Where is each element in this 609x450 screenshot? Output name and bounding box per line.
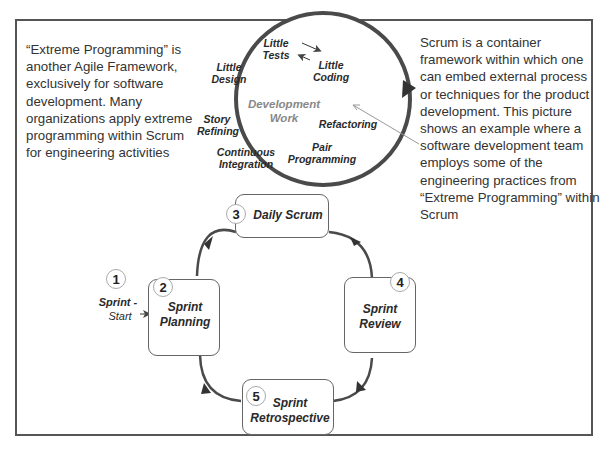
- practice-pair-programming: Pair Programming: [283, 141, 361, 165]
- step-sprint-planning-label: Sprint Planning: [150, 300, 220, 330]
- practice-story-refining: Story Refining: [197, 113, 237, 137]
- step-sprint-review-label: Sprint Review: [346, 302, 414, 332]
- step-daily-scrum-label: Daily Scrum: [248, 208, 328, 223]
- step-number-badge: 3: [226, 204, 246, 224]
- practice-little-tests: Little Tests: [256, 37, 296, 61]
- sprint-start-label: Sprint -: [95, 296, 141, 309]
- step-sprint-retrospective-label: Sprint Retrospective: [246, 396, 334, 426]
- practice-little-design: Little Design: [208, 61, 250, 85]
- step-number-badge: 1: [106, 269, 126, 289]
- step-number-badge: 2: [153, 277, 173, 297]
- practice-little-coding: Little Coding: [311, 59, 351, 83]
- step-number-badge: 4: [390, 272, 410, 292]
- practice-refactoring: Refactoring: [312, 118, 384, 130]
- sprint-start-sub-label: Start: [99, 310, 141, 323]
- practice-continuous-integration: Continuous Integration: [214, 146, 278, 170]
